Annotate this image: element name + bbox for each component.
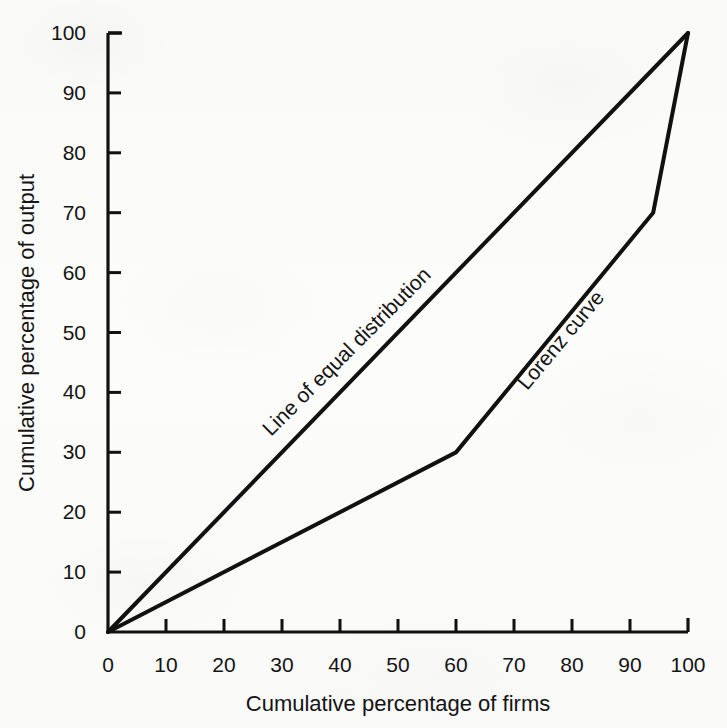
series-label-lorenz-curve: Lorenz curve (513, 286, 609, 394)
x-tick-label: 0 (102, 653, 114, 676)
x-tick-label: 10 (154, 653, 177, 676)
y-tick-label: 100 (51, 21, 86, 44)
y-tick-label: 40 (63, 380, 86, 403)
x-tick-label: 40 (328, 653, 351, 676)
x-tick-label: 100 (670, 653, 705, 676)
y-tick-label: 0 (74, 620, 86, 643)
x-tick-label: 30 (270, 653, 293, 676)
y-axis-ticks: 0102030405060708090100 (51, 21, 121, 643)
y-tick-label: 30 (63, 440, 86, 463)
x-axis-title: Cumulative percentage of firms (246, 691, 550, 716)
y-tick-label: 90 (63, 81, 86, 104)
y-tick-label: 10 (63, 560, 86, 583)
x-tick-label: 60 (444, 653, 467, 676)
x-tick-label: 50 (386, 653, 409, 676)
x-tick-label: 90 (618, 653, 641, 676)
chart-page: 0102030405060708090100 01020304050607080… (0, 0, 727, 728)
x-tick-label: 80 (560, 653, 583, 676)
x-tick-label: 70 (502, 653, 525, 676)
lorenz-curve-chart: 0102030405060708090100 01020304050607080… (0, 0, 727, 728)
y-tick-label: 60 (63, 261, 86, 284)
y-tick-label: 50 (63, 321, 86, 344)
y-axis-title: Cumulative percentage of output (14, 174, 39, 492)
y-tick-label: 80 (63, 141, 86, 164)
series-label-line-of-equal-distribution: Line of equal distribution (258, 263, 435, 440)
y-tick-label: 20 (63, 500, 86, 523)
series-annotations: Line of equal distributionLorenz curve (258, 263, 609, 440)
y-tick-label: 70 (63, 201, 86, 224)
x-tick-label: 20 (212, 653, 235, 676)
x-axis-ticks: 0102030405060708090100 (102, 619, 705, 676)
series-line-line-of-equal-distribution (108, 33, 688, 632)
series-lines (108, 33, 688, 632)
